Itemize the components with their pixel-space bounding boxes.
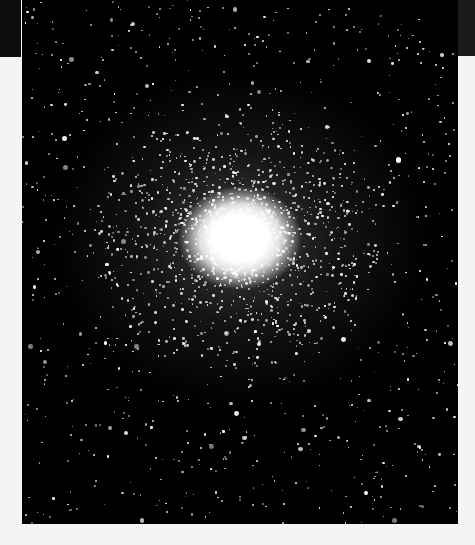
right-edge-strip xyxy=(458,0,475,56)
left-edge-strip xyxy=(0,0,21,57)
star-cluster-photo xyxy=(22,0,458,524)
cluster-core xyxy=(22,0,458,524)
